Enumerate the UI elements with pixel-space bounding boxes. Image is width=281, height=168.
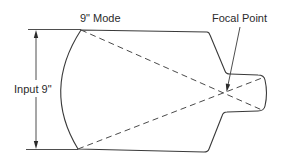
input-size-label: Input 9" — [14, 83, 52, 95]
focal-point-leader-line — [228, 27, 240, 85]
ray-bottom-to-top — [78, 78, 262, 149]
ray-top-to-bottom — [81, 30, 262, 110]
mode-label: 9" Mode — [80, 12, 121, 24]
image-intensifier-diagram: 9" Mode Focal Point Input 9" — [0, 0, 281, 168]
focal-point-label: Focal Point — [212, 12, 267, 24]
arrow-down-icon — [34, 141, 38, 149]
arrow-up-icon — [34, 30, 38, 38]
